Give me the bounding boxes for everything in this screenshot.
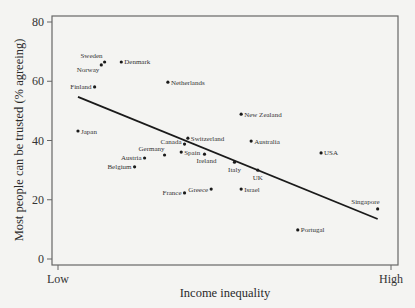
data-point-japan: Japan xyxy=(76,128,97,136)
point-marker xyxy=(180,150,183,153)
point-marker xyxy=(166,81,169,84)
point-marker xyxy=(143,156,146,159)
data-point-israel: Israel xyxy=(240,186,260,194)
data-point-singapore: Singapore xyxy=(351,198,379,211)
data-point-netherlands: Netherlands xyxy=(166,79,205,87)
plot-frame xyxy=(52,16,398,265)
point-marker xyxy=(240,113,243,116)
point-marker xyxy=(93,85,96,88)
point-label: Norway xyxy=(77,66,100,74)
point-marker xyxy=(103,60,106,63)
point-label: Switzerland xyxy=(191,135,225,143)
point-marker xyxy=(186,137,189,140)
x-axis: LowHigh xyxy=(47,265,403,286)
point-marker xyxy=(250,139,253,142)
point-label: UK xyxy=(253,174,263,182)
point-label: Australia xyxy=(254,138,281,146)
point-marker xyxy=(256,169,259,172)
data-point-sweden: Sweden xyxy=(80,52,106,64)
data-point-denmark: Denmark xyxy=(120,58,151,66)
data-point-spain: Spain xyxy=(180,149,201,157)
y-tick-label: 80 xyxy=(32,15,44,29)
point-marker xyxy=(210,187,213,190)
point-marker xyxy=(240,187,243,190)
point-marker xyxy=(319,151,322,154)
data-point-germany: Germany xyxy=(139,145,167,157)
point-label: Netherlands xyxy=(171,79,205,87)
point-label: Greece xyxy=(188,186,208,194)
point-label: Portugal xyxy=(301,226,325,234)
point-label: Ireland xyxy=(197,157,217,165)
point-marker xyxy=(183,142,186,145)
point-label: Israel xyxy=(244,186,260,194)
point-marker xyxy=(203,153,206,156)
x-tick-label: Low xyxy=(47,272,69,286)
point-marker xyxy=(133,165,136,168)
data-point-belgium: Belgium xyxy=(107,163,136,171)
point-label: Spain xyxy=(184,149,200,157)
point-marker xyxy=(100,63,103,66)
y-tick-label: 20 xyxy=(32,193,44,207)
y-tick-label: 0 xyxy=(38,252,44,266)
point-marker xyxy=(233,161,236,164)
y-axis-title: Most people can be trusted (% agreeing) xyxy=(12,39,26,242)
point-label: Denmark xyxy=(124,58,151,66)
y-tick-label: 40 xyxy=(32,134,44,148)
data-point-austria: Austria xyxy=(121,154,146,162)
point-label: Singapore xyxy=(351,198,379,206)
point-marker xyxy=(376,207,379,210)
y-tick-label: 60 xyxy=(32,74,44,88)
data-point-finland: Finland xyxy=(70,83,96,91)
point-label: Germany xyxy=(139,145,166,153)
data-point-usa: USA xyxy=(319,149,338,157)
point-label: New Zealand xyxy=(244,111,282,119)
point-marker xyxy=(120,60,123,63)
point-label: USA xyxy=(324,149,338,157)
scatter-chart: 020406080 LowHigh SwedenNorwayDenmarkFin… xyxy=(0,0,415,308)
data-point-switzerland: Switzerland xyxy=(186,135,225,143)
data-point-new-zealand: New Zealand xyxy=(240,111,283,119)
point-label: Austria xyxy=(121,154,143,162)
point-marker xyxy=(163,153,166,156)
point-marker xyxy=(183,191,186,194)
data-point-australia: Australia xyxy=(250,138,281,146)
data-point-uk: UK xyxy=(253,169,263,183)
point-marker xyxy=(76,129,79,132)
point-label: Sweden xyxy=(80,52,103,60)
data-point-portugal: Portugal xyxy=(296,226,324,234)
x-axis-title: Income inequality xyxy=(180,286,271,300)
data-points: SwedenNorwayDenmarkFinlandNetherlandsJap… xyxy=(70,52,379,234)
point-label: France xyxy=(162,189,181,197)
data-point-greece: Greece xyxy=(188,186,212,194)
data-point-france: France xyxy=(162,189,186,197)
point-label: Belgium xyxy=(107,163,132,171)
y-axis: 020406080 xyxy=(32,15,52,266)
point-label: Italy xyxy=(228,166,241,174)
data-point-norway: Norway xyxy=(77,63,103,74)
point-label: Japan xyxy=(81,128,97,136)
point-label: Finland xyxy=(70,83,92,91)
point-marker xyxy=(296,228,299,231)
x-tick-label: High xyxy=(379,272,403,286)
